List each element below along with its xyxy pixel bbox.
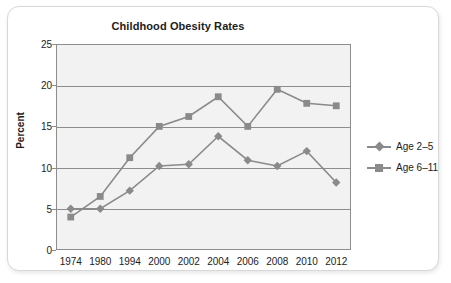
chart-card: Childhood Obesity Rates Percent 05101520… [7,6,439,271]
data-point-square [274,86,281,93]
y-tick-mark [52,85,56,86]
x-tick-label: 1994 [119,256,141,267]
x-tick-label: 2010 [296,256,318,267]
data-point-square [126,154,133,161]
data-point-square [333,102,340,109]
data-point-diamond [273,162,281,170]
y-tick-label: 25 [16,39,52,50]
legend-swatch [367,141,391,153]
data-point-square [97,193,104,200]
data-point-square [215,93,222,100]
x-tick-label: 1980 [89,256,111,267]
y-tick-mark [52,44,56,45]
y-tick-label: 10 [16,162,52,173]
data-point-diamond [67,205,75,213]
y-tick-label: 0 [16,245,52,256]
series-line [71,89,337,217]
legend-marker-diamond [374,142,384,152]
chart-title: Childhood Obesity Rates [8,20,348,32]
series-layer [56,44,351,250]
x-tick-label: 2002 [178,256,200,267]
legend-item[interactable]: Age 6–11 [367,157,451,178]
legend-label: Age 2–5 [391,141,433,152]
data-point-square [185,113,192,120]
legend-swatch [367,162,391,174]
plot-wrapper [56,44,351,250]
y-tick-mark [52,209,56,210]
x-tick-label: 2012 [325,256,347,267]
data-point-square [303,100,310,107]
legend-label: Age 6–11 [391,162,438,173]
chart-legend: Age 2–5Age 6–11 [367,136,451,178]
legend-item[interactable]: Age 2–5 [367,136,451,157]
y-tick-mark [52,250,56,251]
x-tick-label: 2000 [148,256,170,267]
y-tick-label: 5 [16,203,52,214]
x-tick-label: 2006 [237,256,259,267]
x-tick-label: 2004 [207,256,229,267]
series-line [71,136,337,209]
data-point-square [244,123,251,130]
y-tick-mark [52,126,56,127]
y-tick-mark [52,168,56,169]
data-point-diamond [96,205,104,213]
data-point-square [156,123,163,130]
x-tick-label: 2008 [266,256,288,267]
y-tick-label: 20 [16,80,52,91]
legend-marker-square [375,164,383,172]
y-tick-label: 15 [16,121,52,132]
data-point-square [67,214,74,221]
x-tick-label: 1974 [60,256,82,267]
